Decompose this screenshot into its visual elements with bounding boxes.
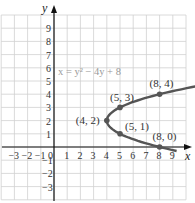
data-point [117,105,123,111]
y-tick-label: 7 [46,50,51,61]
y-tick-label: 4 [46,89,51,100]
x-tick-label: 9 [170,150,175,161]
point-label: (5, 1) [125,120,149,133]
y-tick-label: 6 [46,63,51,74]
y-tick-label: 8 [46,36,51,47]
y-tick-label: −2 [42,168,53,179]
x-tick-labels: −3−2−10123456789 [8,150,174,161]
x-tick-label: −2 [22,150,33,161]
equation-label: x = y² − 4y + 8 [58,66,121,77]
data-point [157,144,163,150]
axes [2,5,192,201]
x-tick-label: 2 [77,150,82,161]
point-label: (4, 2) [76,114,100,127]
y-tick-label: 2 [46,116,51,127]
y-axis-arrow-icon [51,5,57,13]
point-label: (8, 4) [150,77,174,90]
y-tick-label: 5 [46,76,51,87]
y-tick-label: −1 [42,155,53,166]
y-axis-label: y [41,1,48,15]
y-tick-label: 1 [46,129,51,140]
data-point [117,131,123,137]
x-axis-label: x [184,149,191,163]
x-tick-label: 3 [91,150,96,161]
x-tick-label: 6 [130,150,135,161]
x-tick-label: 5 [117,150,122,161]
point-label: (8, 0) [153,130,177,143]
x-tick-label: 7 [143,150,148,161]
x-tick-label: 1 [64,150,69,161]
grid [1,15,186,200]
data-point [157,91,163,97]
data-point [104,118,110,124]
y-tick-labels: 987654321−1−2−3 [42,23,53,192]
y-tick-label: −3 [42,182,53,193]
x-tick-label: −3 [8,150,19,161]
parabola-chart: x y −3−2−10123456789 987654321−1−2−3 x =… [0,0,195,203]
x-tick-label: 4 [104,150,109,161]
point-label: (5, 3) [110,91,134,104]
data-points: (4, 2)(5, 3)(8, 4)(5, 1)(8, 0) [76,77,177,150]
y-tick-label: 3 [46,102,51,113]
y-tick-label: 9 [46,23,51,34]
x-tick-label: 8 [157,150,162,161]
